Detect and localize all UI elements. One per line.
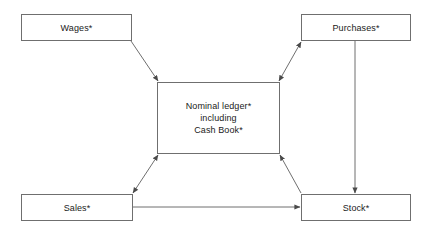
node-wages-label: Wages*	[61, 22, 93, 34]
node-purchases-label: Purchases*	[332, 22, 379, 34]
connector-nominal-to-purchases	[279, 42, 301, 81]
node-sales[interactable]: Sales*	[21, 194, 133, 221]
node-stock-label: Stock*	[343, 202, 370, 214]
node-purchases[interactable]: Purchases*	[301, 14, 411, 41]
node-stock[interactable]: Stock*	[301, 194, 411, 221]
node-nominal-ledger-line-1: Nominal ledger*	[186, 100, 252, 112]
node-nominal-ledger[interactable]: Nominal ledger* including Cash Book*	[157, 82, 280, 154]
connector-stock-to-nominal	[280, 155, 301, 193]
connector-wages-to-nominal	[131, 41, 158, 81]
node-nominal-ledger-line-3: Cash Book*	[186, 124, 252, 136]
node-nominal-ledger-line-2: including	[186, 112, 252, 124]
node-nominal-ledger-text: Nominal ledger* including Cash Book*	[186, 100, 252, 136]
connector-sales-to-nominal	[133, 155, 158, 193]
node-wages[interactable]: Wages*	[21, 14, 132, 41]
diagram-canvas: Wages* Purchases* Nominal ledger* includ…	[0, 0, 429, 228]
node-sales-label: Sales*	[64, 202, 91, 214]
